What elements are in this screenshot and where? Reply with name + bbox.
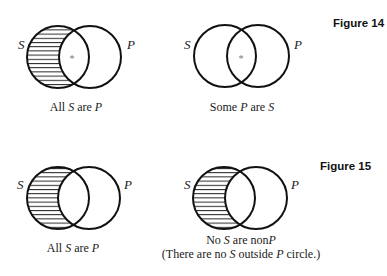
venn-no-s-are-nonp: S P No S are nonP (There are no S outsid… — [162, 160, 320, 261]
circle-p — [227, 25, 289, 87]
label-p: P — [123, 177, 132, 192]
venn-diagrams-canvas: Figure 14 * S P All S are P * S P Some P… — [0, 0, 387, 276]
figure-14-label: Figure 14 — [333, 17, 385, 29]
existence-marker: * — [239, 53, 244, 64]
venn-some-p-are-s: * S P Some P are S — [184, 25, 302, 114]
subcaption: (There are no S outside P circle.) — [162, 247, 320, 261]
label-s: S — [17, 177, 24, 192]
label-s: S — [184, 177, 191, 192]
figure-15-label: Figure 15 — [320, 160, 372, 172]
venn-all-s-are-p-fig14: * S P All S are P — [18, 20, 135, 114]
circle-s — [194, 25, 256, 87]
label-s: S — [184, 37, 191, 52]
label-p: P — [126, 37, 135, 52]
caption: All S are P — [50, 100, 103, 114]
label-s: S — [18, 37, 25, 52]
label-p: P — [293, 37, 302, 52]
caption: All S are P — [47, 241, 100, 255]
label-p: P — [290, 177, 299, 192]
caption: Some P are S — [210, 100, 274, 114]
venn-all-s-are-p-fig15: S P All S are P — [17, 160, 132, 255]
caption: No S are nonP — [206, 233, 276, 247]
existence-marker: * — [70, 53, 75, 64]
